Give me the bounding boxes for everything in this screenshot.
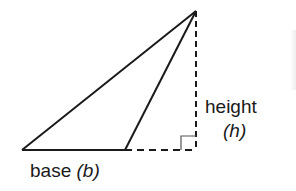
- height-label-word: height: [205, 97, 257, 116]
- scan-edge-shading: [290, 30, 296, 90]
- base-label-word: base: [30, 160, 71, 181]
- side-inner-to-apex: [125, 11, 196, 150]
- base-label-variable: (b): [76, 160, 99, 181]
- triangle-diagram: height (h) base (b): [0, 0, 296, 191]
- side-left-to-apex: [22, 11, 196, 150]
- base-label: base (b): [30, 161, 100, 180]
- right-angle-marker: [181, 136, 196, 150]
- height-label: height (h): [205, 97, 257, 140]
- height-label-variable: (h): [223, 121, 257, 140]
